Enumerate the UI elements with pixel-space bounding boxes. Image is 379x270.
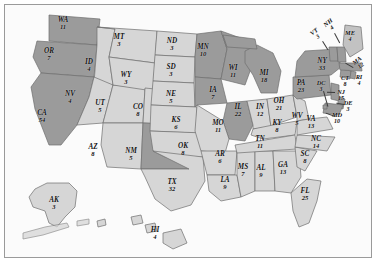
state-label-nm: NM5: [117, 148, 145, 162]
state-value-nc: 14: [302, 143, 330, 150]
state-value-nv: 4: [56, 98, 84, 105]
state-value-sd: 3: [157, 71, 185, 78]
state-value-mn: 10: [189, 51, 217, 58]
state-value-sc: 8: [291, 158, 319, 165]
state-label-mt: MT3: [105, 34, 133, 48]
state-value-nj: 15: [327, 95, 355, 101]
state-label-nv: NV4: [56, 91, 84, 105]
state-value-ky: 8: [263, 127, 291, 134]
state-label-va: VA13: [297, 116, 325, 130]
state-label-mo: MO11: [204, 120, 232, 134]
state-label-sd: SD3: [157, 64, 185, 78]
state-value-ne: 5: [157, 98, 185, 105]
state-value-id: 4: [75, 66, 103, 73]
state-label-ak: AK3: [40, 197, 68, 211]
state-label-sc: SC8: [291, 151, 319, 165]
state-value-ca: 54: [28, 117, 56, 124]
state-label-tx: TX32: [158, 179, 186, 193]
state-label-hi: HI4: [141, 227, 169, 241]
state-label-ut: UT5: [86, 100, 114, 114]
state-value-fl: 25: [291, 195, 319, 202]
state-label-ks: KS6: [162, 117, 190, 131]
state-label-ok: OK8: [169, 143, 197, 157]
state-label-co: CO8: [124, 104, 152, 118]
state-label-wy: WY3: [112, 72, 140, 86]
state-value-va: 13: [297, 123, 325, 130]
state-label-mi: MI18: [250, 70, 278, 84]
state-value-nd: 3: [158, 45, 186, 52]
us-map-graphic: .s{stroke:#6f6f6f;stroke-width:0.7;strok…: [5, 5, 371, 257]
state-label-wi: WI11: [219, 65, 247, 79]
state-value-ga: 13: [269, 169, 297, 176]
state-label-de: DE3: [334, 100, 362, 112]
state-label-or: OR7: [35, 48, 63, 62]
state-value-hi: 4: [141, 234, 169, 241]
state-value-ri: 4: [345, 80, 372, 86]
state-value-ut: 5: [86, 107, 114, 114]
state-value-nm: 5: [117, 155, 145, 162]
state-label-ia: IA7: [199, 87, 227, 101]
state-value-co: 8: [124, 111, 152, 118]
state-value-me: 4: [336, 36, 364, 42]
state-value-az: 8: [79, 151, 107, 158]
state-label-nc: NC14: [302, 136, 330, 150]
state-value-wy: 3: [112, 79, 140, 86]
state-value-ok: 8: [169, 150, 197, 157]
state-value-tx: 32: [158, 186, 186, 193]
state-label-az: AZ8: [79, 144, 107, 158]
state-value-ks: 6: [162, 124, 190, 131]
state-label-id: ID4: [75, 59, 103, 73]
state-value-oh: 21: [265, 105, 293, 112]
state-value-in: 12: [246, 111, 274, 118]
state-value-ny: 33: [308, 65, 336, 72]
state-value-de: 3: [334, 106, 362, 112]
state-label-wa: WA11: [49, 17, 77, 31]
state-label-mn: MN10: [189, 44, 217, 58]
state-label-ne: NE5: [157, 91, 185, 105]
state-value-ia: 7: [199, 94, 227, 101]
state-value-tn: 11: [246, 143, 274, 150]
state-label-me: ME4: [336, 30, 364, 42]
state-value-wi: 11: [219, 72, 247, 79]
state-value-md: 10: [323, 118, 351, 124]
state-label-ar: AR6: [206, 151, 234, 165]
state-label-la: LA9: [211, 177, 239, 191]
state-value-ak: 3: [40, 204, 68, 211]
state-value-mo: 11: [204, 127, 232, 134]
state-value-mi: 18: [250, 77, 278, 84]
leader-line-nj: [327, 92, 335, 93]
state-label-nd: ND3: [158, 38, 186, 52]
state-label-ny: NY33: [308, 58, 336, 72]
state-label-fl: FL25: [291, 188, 319, 202]
state-value-la: 9: [211, 184, 239, 191]
state-shape-nh: [337, 47, 346, 62]
state-label-ri: RI4: [345, 74, 372, 86]
state-shape-az: [101, 123, 143, 169]
state-label-oh: OH21: [265, 98, 293, 112]
state-label-ca: CA54: [28, 110, 56, 124]
state-value-wa: 11: [49, 24, 77, 31]
state-value-or: 7: [35, 55, 63, 62]
state-value-mt: 3: [105, 41, 133, 48]
state-label-tn: TN11: [246, 136, 274, 150]
map-frame: .s{stroke:#6f6f6f;stroke-width:0.7;strok…: [4, 4, 372, 258]
state-label-nj: NJ15: [327, 89, 355, 101]
